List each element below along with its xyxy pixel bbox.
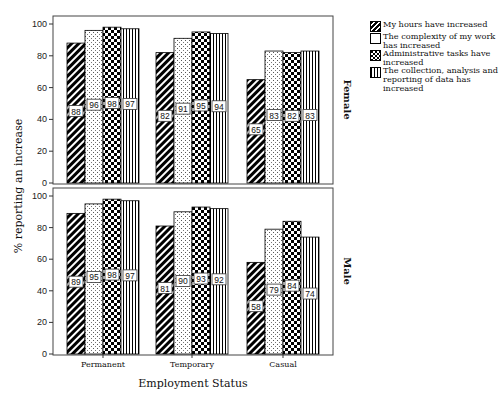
x-axis-title: Employment Status: [138, 377, 248, 390]
panel-male: 020406080100898158959079989384979274Male: [32, 188, 353, 359]
panel-female: 020406080100888265969183989582979483Fema…: [32, 16, 353, 188]
data-label: 74: [305, 289, 315, 299]
legend-label: Administrative tasks have increased: [383, 49, 503, 66]
data-label: 97: [125, 271, 135, 281]
data-label: 90: [178, 276, 188, 286]
data-label: 89: [71, 277, 81, 287]
data-label: 79: [269, 285, 279, 295]
data-label: 82: [160, 111, 170, 121]
y-tick-label: 20: [37, 146, 47, 156]
data-label: 83: [269, 111, 279, 121]
legend-item: The complexity of my work has increased: [370, 32, 503, 49]
data-label: 58: [251, 302, 261, 312]
y-tick-label: 80: [37, 223, 47, 233]
data-label: 91: [178, 104, 188, 114]
dots-pattern-swatch-icon: [370, 33, 381, 44]
data-label: 92: [214, 275, 224, 285]
chart-legend: My hours have increasedThe complexity of…: [370, 20, 503, 92]
data-label: 83: [305, 111, 315, 121]
data-label: 93: [196, 274, 206, 284]
data-label: 65: [251, 125, 261, 135]
data-label: 96: [89, 100, 99, 110]
y-tick-label: 20: [37, 317, 47, 327]
data-label: 98: [107, 270, 117, 280]
legend-label: The collection, analysis and reporting o…: [383, 66, 503, 92]
y-tick-label: 100: [32, 19, 47, 29]
data-label: 95: [89, 272, 99, 282]
x-category-label: Temporary: [170, 360, 214, 369]
y-tick-label: 0: [42, 178, 47, 188]
data-label: 97: [125, 99, 135, 109]
data-label: 84: [287, 281, 297, 291]
y-tick-label: 100: [32, 191, 47, 201]
diagonal-pattern-swatch-icon: [370, 21, 381, 32]
legend-label: My hours have increased: [383, 20, 487, 29]
legend-item: Administrative tasks have increased: [370, 49, 503, 66]
panel-label: Male: [342, 257, 353, 285]
vertical-pattern-swatch-icon: [370, 67, 381, 78]
x-category-label: Permanent: [81, 360, 126, 369]
legend-item: The collection, analysis and reporting o…: [370, 66, 503, 92]
data-label: 95: [196, 101, 206, 111]
y-tick-label: 60: [37, 83, 47, 93]
legend-label: The complexity of my work has increased: [383, 32, 503, 49]
y-axis-title: % reporting an increase: [12, 119, 25, 254]
y-tick-label: 80: [37, 51, 47, 61]
y-tick-label: 40: [37, 286, 47, 296]
checker-pattern-swatch-icon: [370, 50, 381, 61]
data-label: 88: [71, 107, 81, 117]
data-label: 94: [214, 102, 224, 112]
y-tick-label: 0: [42, 349, 47, 359]
data-label: 82: [287, 111, 297, 121]
y-tick-label: 60: [37, 254, 47, 264]
data-label: 98: [107, 99, 117, 109]
y-tick-label: 40: [37, 114, 47, 124]
panel-label: Female: [342, 79, 353, 119]
data-label: 81: [160, 284, 170, 294]
x-category-label: Casual: [269, 360, 297, 369]
